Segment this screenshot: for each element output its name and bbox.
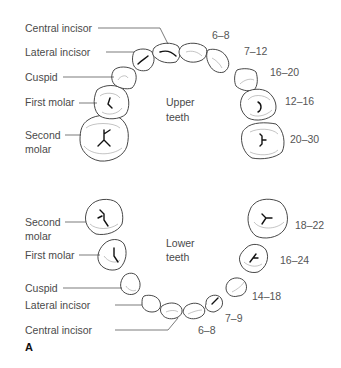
lower-left-first-molar	[98, 240, 126, 271]
upper-left-central-incisor	[153, 43, 180, 63]
lower-label-second-molar-line2: molar	[25, 230, 52, 242]
lower-teeth-title-line1: Lower	[166, 237, 195, 249]
lower-label-second-molar-line1: Second	[25, 216, 61, 228]
upper-teeth-title-line1: Upper	[166, 96, 195, 108]
upper-age-first-molar: 12–16	[285, 95, 314, 107]
upper-label-cuspid: Cuspid	[25, 71, 58, 83]
lower-label-first-molar: First molar	[25, 249, 75, 261]
upper-label-central-incisor: Central incisor	[25, 22, 93, 34]
lower-right-central-incisor	[183, 303, 205, 319]
lower-label-cuspid: Cuspid	[25, 282, 58, 294]
upper-age-cuspid: 16–20	[270, 66, 299, 78]
lower-label-lateral-incisor: Lateral incisor	[25, 299, 91, 311]
lower-right-lateral-incisor	[205, 295, 222, 312]
upper-right-central-incisor	[179, 43, 207, 62]
lower-right-cuspid	[226, 278, 247, 297]
primary-teeth-eruption-diagram: Central incisor Lateral incisor Cuspid F…	[0, 0, 341, 368]
upper-right-cuspid	[235, 69, 258, 91]
lower-left-lateral-incisor	[142, 295, 161, 312]
upper-teeth-title-line2: teeth	[166, 111, 190, 123]
upper-label-second-molar-line1: Second	[25, 129, 61, 141]
lower-left-cuspid	[121, 273, 140, 294]
upper-left-first-molar	[94, 86, 129, 119]
upper-age-second-molar: 20–30	[290, 133, 319, 145]
lower-age-lateral-incisor: 7–9	[225, 312, 243, 324]
upper-label-second-molar-line2: molar	[25, 143, 52, 155]
lower-right-first-molar	[239, 244, 267, 272]
upper-right-first-molar	[241, 89, 276, 120]
lower-leader-lines	[63, 222, 178, 330]
lower-age-central-incisor: 6–8	[198, 324, 216, 336]
panel-label: A	[25, 341, 33, 353]
lower-age-cuspid: 14–18	[252, 290, 281, 302]
lower-left-central-incisor	[161, 303, 183, 319]
upper-right-lateral-incisor	[207, 49, 229, 72]
lower-age-first-molar: 16–24	[280, 254, 309, 266]
upper-label-first-molar: First molar	[25, 96, 75, 108]
upper-age-lateral-incisor: 7–12	[244, 45, 268, 57]
upper-left-lateral-incisor	[133, 49, 155, 71]
lower-teeth-title-line2: teeth	[166, 251, 190, 263]
upper-right-second-molar	[241, 123, 284, 159]
upper-left-cuspid	[112, 67, 136, 89]
lower-left-second-molar	[85, 199, 122, 234]
upper-age-central-incisor: 6–8	[212, 29, 230, 41]
upper-left-second-molar	[80, 115, 128, 161]
lower-label-central-incisor: Central incisor	[25, 324, 93, 336]
upper-label-lateral-incisor: Lateral incisor	[25, 46, 91, 58]
lower-right-second-molar	[248, 199, 287, 238]
lower-age-second-molar: 18–22	[295, 219, 324, 231]
